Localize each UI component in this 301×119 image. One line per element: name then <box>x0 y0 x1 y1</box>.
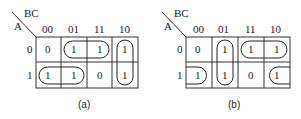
caption-b: (b) <box>228 99 240 110</box>
col-label-11: 11 <box>245 23 256 35</box>
col-variable-label: BC <box>174 7 189 19</box>
cell-a1-bc11: 0 <box>248 69 254 81</box>
col-variable-label: BC <box>24 7 39 19</box>
col-label-00: 00 <box>193 23 205 35</box>
cell-a0-bc01: 1 <box>71 43 77 55</box>
cell-a0-bc00: 0 <box>195 43 201 55</box>
cell-a0-bc01: 1 <box>222 43 228 55</box>
cell-a0-bc10: 1 <box>274 43 280 55</box>
cell-a1-bc10: 1 <box>122 69 128 81</box>
col-label-01: 01 <box>218 23 229 35</box>
cell-a1-bc11: 0 <box>97 69 103 81</box>
cell-a0-bc10: 1 <box>122 43 128 55</box>
kmap-b: BC A 00 01 11 10 0 1 0 1 1 1 1 1 0 1 (b) <box>162 7 290 110</box>
cell-a0-bc00: 0 <box>45 43 51 55</box>
row-label-1: 1 <box>27 69 33 81</box>
caption-a: (a) <box>78 99 90 110</box>
row-label-1: 1 <box>177 69 183 81</box>
col-label-10: 10 <box>270 23 282 35</box>
col-label-01: 01 <box>68 23 79 35</box>
col-label-00: 00 <box>42 23 54 35</box>
group-loop-wrap-right <box>270 67 291 84</box>
cell-a0-bc11: 1 <box>248 43 254 55</box>
cell-a1-bc00: 1 <box>195 69 201 81</box>
col-label-10: 10 <box>119 23 131 35</box>
row-label-0: 0 <box>177 43 183 55</box>
col-label-11: 11 <box>94 23 105 35</box>
cell-a1-bc00: 1 <box>45 69 51 81</box>
kmap-a: BC A 00 01 11 10 0 1 0 1 1 1 1 1 0 1 (a) <box>12 7 138 110</box>
karnaugh-maps-figure: BC A 00 01 11 10 0 1 0 1 1 1 1 1 0 1 (a)… <box>0 0 301 119</box>
cell-a1-bc10: 1 <box>274 69 280 81</box>
cell-a1-bc01: 1 <box>71 69 77 81</box>
row-variable-label: A <box>14 20 22 32</box>
cell-a1-bc01: 1 <box>222 69 228 81</box>
cell-a0-bc11: 1 <box>97 43 103 55</box>
row-variable-label: A <box>164 20 172 32</box>
row-label-0: 0 <box>27 43 33 55</box>
